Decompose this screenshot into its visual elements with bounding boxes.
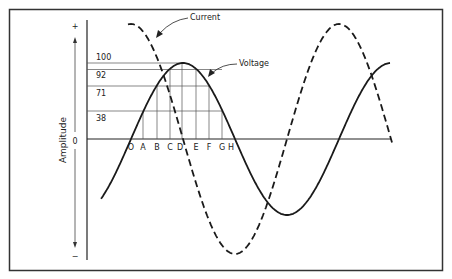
current-callout: Current xyxy=(156,13,220,38)
point-label-D: D xyxy=(177,143,183,152)
voltage-label: Voltage xyxy=(239,59,269,68)
voltage-current-phase-diagram: + 0 − Amplitude 100 92 71 38 O A xyxy=(0,0,452,279)
axis-zero-label: 0 xyxy=(72,137,77,146)
amplitude-axis-indicator: + 0 − Amplitude xyxy=(58,22,78,261)
arrow-down-icon xyxy=(73,242,77,248)
point-label-H: H xyxy=(228,143,234,152)
point-label-G: G xyxy=(219,143,225,152)
axis-plus-label: + xyxy=(72,22,79,31)
amplitude-tick-labels: 100 92 71 38 xyxy=(96,53,111,123)
amplitude-axis-title: Amplitude xyxy=(58,116,68,163)
tick-71: 71 xyxy=(96,89,106,98)
tick-100: 100 xyxy=(96,53,111,62)
arrow-up-icon xyxy=(73,37,77,43)
current-label: Current xyxy=(190,13,220,22)
callout-arrow-icon xyxy=(208,69,215,77)
point-label-C: C xyxy=(167,143,173,152)
point-labels: O A B C D E F G H xyxy=(128,143,234,152)
point-label-A: A xyxy=(140,143,146,152)
tick-38: 38 xyxy=(96,114,106,123)
axis-minus-label: − xyxy=(72,252,79,261)
voltage-callout: Voltage xyxy=(208,59,269,77)
point-label-E: E xyxy=(193,143,198,152)
point-label-B: B xyxy=(154,143,160,152)
tick-92: 92 xyxy=(96,71,106,80)
point-label-F: F xyxy=(207,143,212,152)
amplitude-guide-lines xyxy=(87,63,222,111)
